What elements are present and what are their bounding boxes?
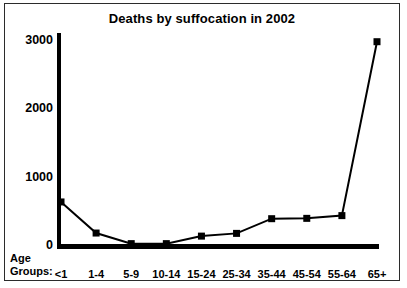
chart-frame: Deaths by suffocation in 2002 0100020003… <box>4 3 400 281</box>
plot-area: 0100020003000 <11-45-910-1415-2425-3435-… <box>5 4 401 282</box>
data-point-marker <box>374 38 381 45</box>
data-point-marker <box>233 230 240 237</box>
axis-caption-line2: Groups: <box>10 265 53 278</box>
data-point-marker <box>268 215 275 222</box>
data-point-marker <box>303 215 310 222</box>
data-point-marker <box>198 233 205 240</box>
axis-caption-line1: Age <box>10 252 53 265</box>
data-point-marker <box>128 240 135 247</box>
data-point-marker <box>58 198 65 205</box>
data-point-marker <box>163 240 170 247</box>
data-point-marker <box>93 230 100 237</box>
data-point-marker <box>338 212 345 219</box>
axis-caption: Age Groups: <box>10 252 53 278</box>
data-series <box>5 4 401 282</box>
series-line <box>61 42 377 244</box>
